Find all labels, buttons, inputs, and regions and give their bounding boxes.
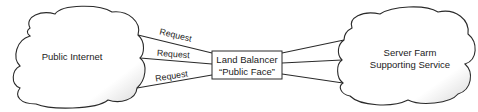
request-label-3: Request xyxy=(155,68,189,83)
server-farm-cloud: Server Farm Supporting Service xyxy=(338,7,476,105)
request-labels: Request Request Request xyxy=(155,27,194,84)
backend-line-1 xyxy=(282,40,344,53)
request-label-2: Request xyxy=(157,48,191,60)
server-farm-sublabel: Supporting Service xyxy=(370,59,450,70)
public-internet-cloud: Public Internet xyxy=(13,6,145,108)
backend-line-3 xyxy=(282,74,343,83)
public-internet-label: Public Internet xyxy=(42,51,103,62)
diagram-canvas: Public Internet Request Request Request … xyxy=(0,0,478,112)
load-balancer-label: Land Balancer xyxy=(216,54,277,65)
backend-connectors xyxy=(282,40,344,83)
load-balancer-sublabel: “Public Face” xyxy=(219,66,275,77)
server-farm-label: Server Farm xyxy=(384,47,437,58)
load-balancer-box: Land Balancer “Public Face” xyxy=(212,51,282,79)
backend-line-2 xyxy=(282,60,342,63)
